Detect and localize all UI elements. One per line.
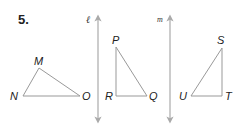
- triangle-stu: S T U: [179, 34, 233, 102]
- vertex-q-label: Q: [149, 90, 158, 102]
- line-m-label: m: [157, 15, 163, 24]
- triangle-pqr: P R Q: [105, 34, 158, 102]
- vertex-r-label: R: [105, 90, 113, 102]
- vertex-t-label: T: [225, 90, 233, 102]
- problem-number: 5.: [18, 12, 29, 27]
- vertex-n-label: N: [10, 90, 18, 102]
- triangle-stu-shape: [191, 48, 222, 96]
- line-l: ℓ: [86, 14, 98, 120]
- vertex-m-label: M: [34, 55, 44, 67]
- triangle-mno: M N O: [10, 55, 91, 102]
- triangle-mno-shape: [23, 68, 80, 96]
- vertex-u-label: U: [179, 90, 187, 102]
- vertex-o-label: O: [82, 90, 91, 102]
- triangle-pqr-shape: [116, 47, 147, 96]
- vertex-s-label: S: [217, 34, 225, 46]
- geometry-figure: 5. ℓ m M N O P R Q S T U: [0, 0, 247, 126]
- line-l-label: ℓ: [86, 14, 90, 25]
- line-m: m: [157, 15, 170, 120]
- vertex-p-label: P: [112, 34, 120, 46]
